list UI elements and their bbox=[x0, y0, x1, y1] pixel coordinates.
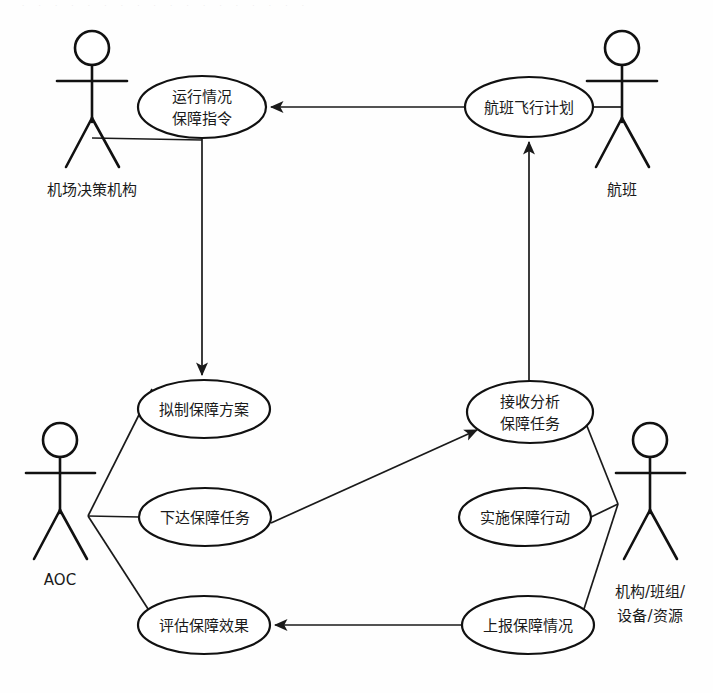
use-case-label-line1: 拟制保障方案 bbox=[159, 401, 249, 419]
use-case-report-support-status[interactable]: 上报保障情况 bbox=[462, 596, 594, 654]
use-case-flight-plan[interactable]: 航班飞行计划 bbox=[465, 77, 593, 137]
actor-label: 航班 bbox=[607, 181, 637, 199]
use-case-operation-status-command[interactable]: 运行情况 保障指令 bbox=[138, 76, 266, 138]
actor-label: 机场决策机构 bbox=[47, 181, 137, 199]
assoc-aoc-to-issue bbox=[88, 516, 139, 517]
actor-head-icon bbox=[43, 423, 77, 457]
use-case-label-line1: 评估保障效果 bbox=[159, 617, 249, 635]
use-case-diagram-canvas: · · · · · · · · · · · · · · · · · · 运行情况… bbox=[0, 0, 713, 693]
use-case-draft-support-plan[interactable]: 拟制保障方案 bbox=[138, 380, 270, 438]
use-case-evaluate-support-effect[interactable]: 评估保障效果 bbox=[138, 596, 270, 654]
use-case-issue-support-task[interactable]: 下达保障任务 bbox=[139, 488, 271, 546]
use-case-label-line1: 运行情况 bbox=[172, 88, 232, 106]
use-case-label-line2: 保障任务 bbox=[500, 415, 560, 433]
use-case-implement-support-action[interactable]: 实施保障行动 bbox=[459, 488, 591, 546]
actor-label-line2: 设备/资源 bbox=[617, 607, 682, 625]
use-case-ellipse[interactable] bbox=[138, 76, 266, 138]
use-case-receive-analyze-task[interactable]: 接收分析 保障任务 bbox=[467, 381, 593, 443]
use-case-label-line1: 接收分析 bbox=[500, 393, 560, 411]
actor-head-icon bbox=[633, 423, 667, 457]
actor-label: AOC bbox=[44, 571, 76, 589]
actor-head-icon bbox=[605, 31, 639, 65]
use-case-ellipse[interactable] bbox=[467, 381, 593, 443]
use-case-label-line1: 实施保障行动 bbox=[480, 509, 570, 527]
actor-label-line1: 机构/班组/ bbox=[615, 583, 686, 601]
use-case-label-line1: 下达保障任务 bbox=[160, 509, 250, 527]
actor-head-icon bbox=[75, 31, 109, 65]
scan-artifact-strip: · · · · · · · · · · · · · · · · · · bbox=[22, 2, 310, 10]
use-case-label-line1: 上报保障情况 bbox=[483, 617, 573, 635]
use-case-label-line2: 保障指令 bbox=[172, 110, 232, 128]
diagram-background bbox=[0, 0, 713, 693]
use-case-label-line1: 航班飞行计划 bbox=[484, 99, 574, 117]
